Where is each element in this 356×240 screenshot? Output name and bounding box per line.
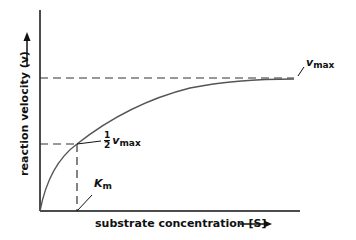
x-axis-label: substrate concentration [S] [95, 217, 267, 230]
y-axis-arrow-icon [24, 32, 31, 41]
one-half-fraction: 1 2 [104, 131, 110, 150]
y-axis-label: reaction velocity (v) [18, 44, 31, 184]
km-label: Km [94, 177, 112, 191]
vmax-leader [298, 67, 304, 76]
km-leader [77, 195, 92, 211]
vmax-label: vmax [306, 56, 334, 70]
diagram-canvas [0, 0, 356, 240]
half-vmax-label: 1 2 vmax [104, 131, 141, 150]
saturation-curve [40, 79, 294, 211]
